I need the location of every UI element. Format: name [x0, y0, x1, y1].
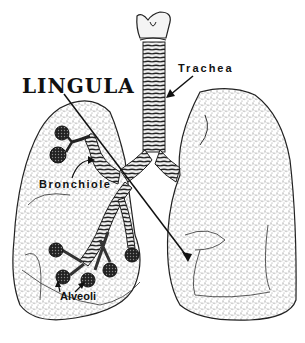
larynx [137, 12, 170, 38]
bronchiole-label: Bronchiole [39, 178, 111, 190]
alveoli-label: Alveoli [60, 290, 96, 302]
right-lung [168, 89, 297, 321]
trachea-label: Trachea [178, 62, 234, 74]
trachea [143, 42, 165, 152]
lung-illustration [0, 0, 305, 343]
right-main-bronchus [155, 150, 180, 182]
lung-diagram: LINGULA Trachea Bronchiole Alveoli [0, 0, 305, 343]
lingula-label: LINGULA [22, 74, 135, 98]
